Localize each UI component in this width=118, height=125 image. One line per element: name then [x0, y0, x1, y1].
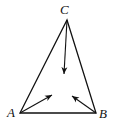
triangle-abc: [20, 20, 96, 113]
vector-from-c: [64, 20, 67, 74]
vector-from-b: [72, 96, 96, 113]
vertex-label-c: C: [60, 3, 69, 16]
vertex-label-b: B: [99, 107, 107, 120]
vertex-label-a: A: [7, 106, 15, 119]
